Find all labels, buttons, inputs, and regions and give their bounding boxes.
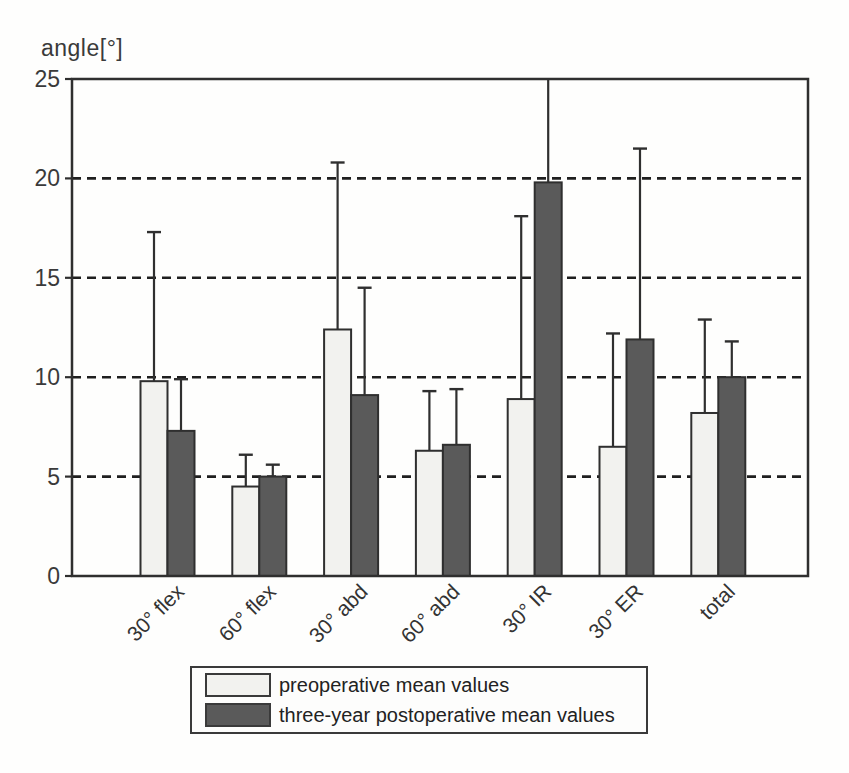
bar-preop-3 xyxy=(324,329,351,576)
bar-postop-2 xyxy=(259,477,286,576)
y-tick-label-15: 15 xyxy=(34,265,60,291)
bar-preop-7 xyxy=(691,413,718,576)
bar-postop-1 xyxy=(168,431,195,576)
x-tick-label-7: total xyxy=(695,580,739,624)
y-tick-label-10: 10 xyxy=(34,364,60,390)
y-tick-label-5: 5 xyxy=(47,464,60,490)
y-tick-label-20: 20 xyxy=(34,165,60,191)
x-tick-label-4: 60° abd xyxy=(396,580,464,648)
bar-postop-7 xyxy=(718,377,745,576)
legend-label-postop: three-year postoperative mean values xyxy=(279,704,615,727)
legend-row-preop: preoperative mean values xyxy=(205,672,646,698)
bar-preop-2 xyxy=(232,487,259,576)
y-tick-label-0: 0 xyxy=(47,563,60,589)
legend-box: preoperative mean values three-year post… xyxy=(190,666,648,734)
bar-preop-5 xyxy=(508,399,535,576)
y-tick-label-25: 25 xyxy=(34,66,60,92)
bar-preop-6 xyxy=(600,447,627,576)
x-tick-label-2: 60° flex xyxy=(214,579,280,645)
bar-postop-5 xyxy=(535,182,562,576)
bar-postop-4 xyxy=(443,445,470,576)
legend-label-preop: preoperative mean values xyxy=(279,674,509,697)
bar-preop-4 xyxy=(416,451,443,576)
legend-row-postop: three-year postoperative mean values xyxy=(205,702,646,728)
bar-preop-1 xyxy=(141,381,168,576)
legend-swatch-postop xyxy=(205,703,271,727)
x-tick-label-5: 30° IR xyxy=(498,580,556,638)
x-tick-label-3: 30° abd xyxy=(304,580,372,648)
bar-chart-svg: 30° flex60° flex30° abd60° abd30° IR30° … xyxy=(0,0,849,773)
x-tick-label-1: 30° flex xyxy=(122,579,188,645)
scanned-figure-page: angle[°] 30° flex60° flex30° abd60° abd3… xyxy=(0,0,849,773)
bar-postop-3 xyxy=(351,395,378,576)
x-tick-label-6: 30° ER xyxy=(584,580,647,643)
legend-swatch-preop xyxy=(205,673,271,697)
bar-postop-6 xyxy=(627,339,654,576)
